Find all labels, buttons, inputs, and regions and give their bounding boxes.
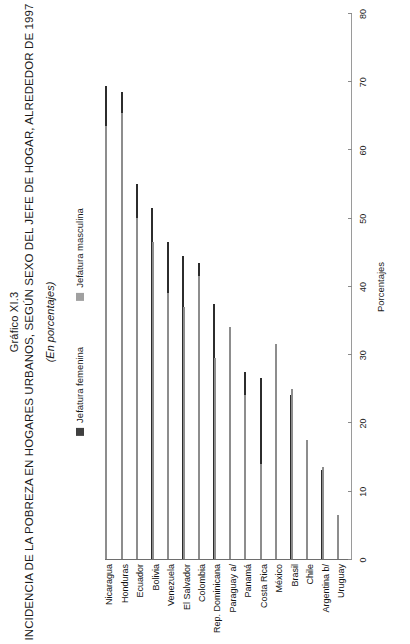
bar-masculina (322, 467, 324, 559)
category-label: México (275, 564, 284, 593)
bar-group: Brasil (290, 14, 305, 559)
legend-swatch-icon-masculina (76, 293, 84, 301)
bar-group: Colombia (198, 14, 213, 559)
plot-area: 01020304050607080 NicaraguaHondurasEcuad… (105, 14, 352, 560)
axis-tick-label: 20 (358, 418, 368, 428)
bar-group: Rep. Dominicana (213, 14, 228, 559)
figure-subtitle: (En porcentajes) (44, 0, 56, 644)
bar-masculina (105, 126, 107, 559)
category-label: Costa Rica (260, 564, 269, 608)
bar-group: Costa Rica (259, 14, 274, 559)
category-label: Honduras (121, 564, 130, 603)
legend-item-jefatura-femenina: Jefatura femenina (74, 347, 85, 436)
chart-figure: Gráfico XI.3 INCIDENCIA DE LA POBREZA EN… (0, 0, 410, 644)
axis-tick-label: 40 (358, 282, 368, 292)
figure-titles: Gráfico XI.3 INCIDENCIA DE LA POBREZA EN… (8, 0, 56, 644)
axis-tick-label: 10 (358, 487, 368, 497)
rotated-figure-wrapper: Gráfico XI.3 INCIDENCIA DE LA POBREZA EN… (0, 0, 410, 644)
bar-masculina (198, 276, 200, 559)
category-label: El Salvador (183, 564, 192, 610)
page-title: INCIDENCIA DE LA POBREZA EN HOGARES URBA… (23, 0, 35, 644)
axis-tick (348, 559, 352, 560)
bar-masculina (306, 440, 308, 559)
bar-masculina (291, 389, 293, 559)
bar-group: Ecuador (136, 14, 151, 559)
category-label: Colombia (198, 564, 207, 602)
category-label: Panamá (244, 564, 253, 598)
category-axis-line (105, 559, 352, 560)
axis-tick-label: 0 (358, 557, 368, 562)
axis-tick-label: 60 (358, 145, 368, 155)
bar-masculina (183, 307, 185, 559)
category-label: Uruguay (337, 564, 346, 598)
bar-group: Chile (306, 14, 321, 559)
bar-group: Paraguay a/ (229, 14, 244, 559)
category-label: Nicaragua (105, 564, 114, 605)
axis-tick-label: 80 (358, 9, 368, 19)
category-label: Brasil (291, 564, 300, 587)
category-label: Chile (306, 564, 315, 585)
bar-masculina (121, 113, 123, 559)
category-label: Bolivia (152, 564, 161, 591)
chart-legend: Jefatura femenina Jefatura masculina (74, 208, 85, 436)
bar-group: Nicaragua (105, 14, 120, 559)
bar-masculina (275, 344, 277, 559)
bar-masculina (260, 464, 262, 559)
bar-group: Argentina b/ (321, 14, 336, 559)
value-axis-title: Porcentajes (375, 14, 386, 560)
axis-tick-label: 30 (358, 350, 368, 360)
bar-group: Venezuela (167, 14, 182, 559)
bar-masculina (229, 327, 231, 559)
bar-group: El Salvador (182, 14, 197, 559)
bar-masculina (167, 293, 169, 559)
category-label: Ecuador (136, 564, 145, 598)
legend-label-masculina: Jefatura masculina (74, 208, 85, 288)
bar-masculina (214, 358, 216, 559)
bar-group: Uruguay (337, 14, 352, 559)
category-label: Argentina b/ (322, 564, 331, 613)
bar-group: Honduras (120, 14, 135, 559)
bar-group: Bolivia (151, 14, 166, 559)
bar-group: México (275, 14, 290, 559)
category-label: Venezuela (167, 564, 176, 606)
figure-number: Gráfico XI.3 (8, 0, 20, 644)
plot-inner: 01020304050607080 NicaraguaHondurasEcuad… (105, 14, 352, 560)
axis-tick-label: 70 (358, 77, 368, 87)
category-label: Paraguay a/ (229, 564, 238, 613)
axis-tick-label: 50 (358, 214, 368, 224)
bar-masculina (152, 242, 154, 559)
bar-masculina (244, 396, 246, 560)
bar-group: Panamá (244, 14, 259, 559)
category-label: Rep. Dominicana (213, 564, 222, 633)
legend-label-femenina: Jefatura femenina (74, 347, 85, 423)
bar-masculina (337, 515, 339, 559)
bar-masculina (136, 218, 138, 559)
legend-item-jefatura-masculina: Jefatura masculina (74, 208, 85, 301)
legend-swatch-icon-femenina (76, 428, 84, 436)
